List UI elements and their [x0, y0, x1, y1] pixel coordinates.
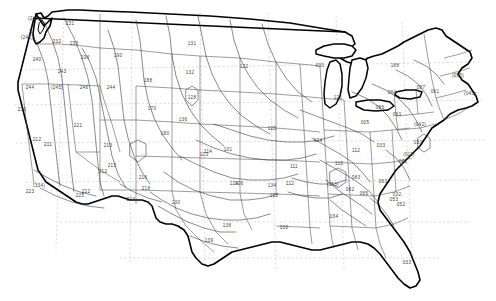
zone-label: 216	[139, 176, 147, 181]
zone-label: 188	[144, 79, 152, 84]
zone-label: 244	[107, 86, 115, 91]
zone-label: 053	[390, 198, 398, 203]
zone-label: 125	[268, 127, 276, 132]
zone-label: (042)	[414, 123, 426, 128]
zone-label: 031	[414, 141, 422, 146]
zone-label: 112	[286, 182, 294, 187]
zone-label: 233	[70, 42, 78, 47]
zone-label: 005	[361, 121, 369, 126]
zone-label: 243	[58, 70, 66, 75]
zone-label: 052	[397, 203, 405, 208]
zone-label: 113	[335, 162, 343, 167]
national-outline	[18, 10, 478, 288]
us-zone-map: (242)(241)231232240233234243244(245)2462…	[0, 0, 496, 301]
zone-label: 128	[188, 96, 196, 101]
zone-label: 036	[280, 226, 288, 231]
zone-label: 244	[26, 86, 34, 91]
zone-label: 087	[417, 86, 425, 91]
zone-label: 030	[316, 64, 324, 69]
zone-label: 121	[334, 96, 342, 101]
zone-label: 224	[127, 198, 135, 203]
zone-label: 188	[391, 64, 399, 69]
zone-label: 215	[108, 164, 116, 169]
zone-label: 063	[393, 113, 401, 118]
zone-label: 212	[99, 170, 107, 175]
zone-label: 033	[403, 261, 411, 266]
zone-label: 132	[270, 194, 278, 199]
zone-label: 086	[376, 106, 384, 111]
zone-label: 190	[114, 54, 122, 59]
zone-label: 221	[74, 124, 82, 129]
zone-label: 132	[186, 71, 194, 76]
zone-label: (241)	[21, 36, 33, 41]
zone-label: 065	[360, 192, 368, 197]
zone-label: 082	[346, 188, 354, 193]
zone-label: 130	[172, 201, 180, 206]
zone-label: 225	[76, 194, 84, 199]
zone-label: 131	[188, 42, 196, 47]
zone-label: 212	[33, 138, 41, 143]
zone-label: 231	[66, 22, 74, 27]
zone-label: 180	[161, 132, 169, 137]
zone-label: 211	[44, 143, 52, 148]
zone-label: 134	[268, 184, 276, 189]
zone-label: 124	[230, 182, 238, 187]
zone-label: 063	[379, 180, 387, 185]
zone-label: (011)	[403, 153, 415, 158]
zone-label: 138	[223, 224, 231, 229]
zone-label: 136	[179, 118, 187, 123]
zone-label: 124	[314, 139, 322, 144]
zone-label: 081	[388, 91, 396, 96]
zone-label: 234	[81, 56, 89, 61]
zone-label: 083	[352, 176, 360, 181]
zone-label: 122	[240, 65, 248, 70]
zone-label: (045)	[464, 92, 476, 97]
zone-label: 041	[399, 160, 407, 165]
zone-label: 170	[148, 107, 156, 112]
zone-label: (334)	[33, 184, 45, 189]
zone-label: 061	[431, 90, 439, 95]
zone-label: (113)	[327, 183, 339, 188]
zone-label: 230	[18, 108, 26, 113]
zone-label: (245)	[51, 86, 63, 91]
state-boundaries	[22, 14, 472, 258]
zone-label: 111	[290, 165, 298, 170]
zone-label: 223	[26, 190, 34, 195]
zone-label: 033	[377, 144, 385, 149]
zone-label: 112	[352, 149, 360, 154]
zone-label: 139	[205, 239, 213, 244]
zone-label: 213	[104, 144, 112, 149]
zone-label: 246	[80, 86, 88, 91]
zone-label: 240	[33, 58, 41, 63]
zone-label: (095)	[452, 74, 464, 79]
zone-label: 218	[142, 187, 150, 192]
zone-label: 101	[224, 148, 232, 153]
zone-label: 114	[204, 150, 212, 155]
zone-label: 034	[330, 215, 338, 220]
zone-label: 232	[53, 40, 61, 45]
zone-label: (242)	[28, 17, 40, 22]
